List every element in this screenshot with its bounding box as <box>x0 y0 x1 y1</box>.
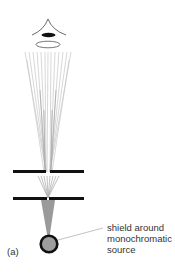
leader-line <box>58 228 103 240</box>
source-label: shield around monochromatic source <box>107 222 172 255</box>
light-source-icon <box>41 236 58 253</box>
source-label-line-2: monochromatic <box>107 233 172 244</box>
lens-icon <box>36 41 60 48</box>
light-cone <box>41 200 55 237</box>
rays-icon <box>25 52 71 172</box>
eye-icon <box>32 19 66 37</box>
source-label-line-1: shield around <box>107 222 172 233</box>
panel-label: (a) <box>7 246 19 257</box>
inter-barrier-rays <box>38 176 59 198</box>
upper-slit-barrier <box>13 170 84 173</box>
source-label-line-3: source <box>107 244 172 255</box>
